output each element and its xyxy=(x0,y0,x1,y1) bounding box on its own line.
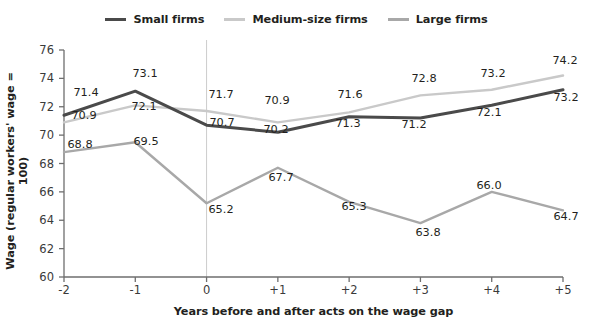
data-point-label: 65.2 xyxy=(208,203,233,216)
x-tick-label: +3 xyxy=(400,283,440,297)
wage-gap-line-chart: Small firms Medium-size firms Large firm… xyxy=(0,0,593,331)
data-point-label: 67.7 xyxy=(268,171,293,184)
x-tick-label: +1 xyxy=(258,283,298,297)
x-tick-label: +2 xyxy=(329,283,369,297)
data-point-label: 71.4 xyxy=(73,86,98,99)
data-point-label: 71.7 xyxy=(208,88,233,101)
x-tick-label: +5 xyxy=(543,283,583,297)
x-tick-label: +4 xyxy=(472,283,512,297)
data-point-label: 66.0 xyxy=(476,179,501,192)
plot-area xyxy=(0,0,593,331)
axis-group xyxy=(59,50,563,282)
data-point-label: 72.1 xyxy=(131,100,156,113)
series-group xyxy=(64,76,563,224)
y-tick-label: 68 xyxy=(28,157,54,171)
data-point-label: 72.1 xyxy=(476,106,501,119)
data-point-label: 73.1 xyxy=(132,67,157,80)
data-point-label: 64.7 xyxy=(553,210,578,223)
y-tick-label: 76 xyxy=(28,43,54,57)
y-tick-label: 62 xyxy=(28,242,54,256)
x-tick-label: 0 xyxy=(187,283,227,297)
y-axis-title: Wage (regular workers' wage = 100) xyxy=(4,66,30,276)
data-point-label: 69.5 xyxy=(133,135,158,148)
x-axis-title: Years before and after acts on the wage … xyxy=(64,305,563,318)
y-tick-label: 64 xyxy=(28,213,54,227)
y-tick-label: 72 xyxy=(28,100,54,114)
y-tick-label: 66 xyxy=(28,185,54,199)
data-point-label: 63.8 xyxy=(415,226,440,239)
data-point-label: 70.2 xyxy=(263,123,288,136)
y-tick-label: 60 xyxy=(28,270,54,284)
data-point-label: 70.9 xyxy=(264,94,289,107)
y-tick-label: 70 xyxy=(28,128,54,142)
data-point-label: 71.2 xyxy=(401,118,426,131)
data-point-label: 71.3 xyxy=(335,117,360,130)
data-point-label: 73.2 xyxy=(553,91,578,104)
data-point-label: 70.9 xyxy=(71,109,96,122)
data-point-label: 70.7 xyxy=(209,116,234,129)
data-point-label: 74.2 xyxy=(552,54,577,67)
data-point-label: 71.6 xyxy=(337,88,362,101)
data-point-label: 72.8 xyxy=(411,72,436,85)
x-tick-label: -2 xyxy=(44,283,84,297)
data-point-label: 73.2 xyxy=(480,67,505,80)
data-point-label: 65.3 xyxy=(341,200,366,213)
x-tick-label: -1 xyxy=(115,283,155,297)
y-tick-label: 74 xyxy=(28,71,54,85)
data-point-label: 68.8 xyxy=(67,138,92,151)
